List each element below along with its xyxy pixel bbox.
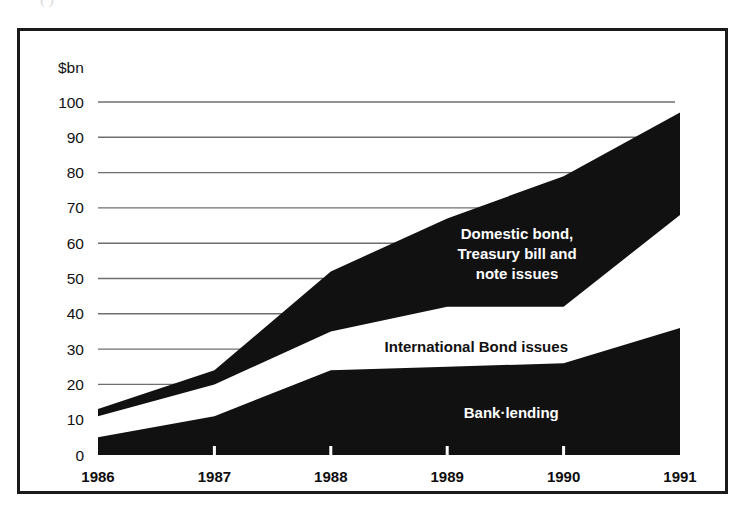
- x-tick-label-1989: 1989: [431, 468, 464, 485]
- figure-container: ( ) 0102030405060708090100 $bn 198619871…: [0, 0, 750, 521]
- y-tick-label-20: 20: [67, 376, 85, 393]
- series-label-2-line-0: Domestic bond,: [461, 225, 574, 242]
- x-axis-labels-group: 198619871988198919901991: [81, 468, 696, 485]
- y-tick-label-10: 10: [67, 411, 85, 428]
- scan-artifact-text: ( ): [40, 0, 300, 9]
- y-tick-label-50: 50: [67, 270, 85, 287]
- x-tick-label-1991: 1991: [663, 468, 696, 485]
- y-tick-label-40: 40: [67, 305, 85, 322]
- y-tick-label-90: 90: [67, 129, 85, 146]
- y-tick-label-100: 100: [58, 94, 84, 111]
- series-label-2-line-1: Treasury bill and: [457, 245, 576, 262]
- series-label-1: International Bond issues: [385, 338, 568, 355]
- chart-frame-border: 0102030405060708090100 $bn 1986198719881…: [17, 28, 728, 494]
- x-tick-label-1990: 1990: [547, 468, 580, 485]
- y-tick-label-0: 0: [75, 447, 84, 464]
- y-tick-label-60: 60: [67, 235, 85, 252]
- y-tick-label-30: 30: [67, 341, 85, 358]
- area-series-group: [98, 113, 680, 455]
- series-label-0: Bank·lending: [464, 404, 559, 421]
- y-axis-labels-group: 0102030405060708090100: [58, 94, 84, 464]
- y-tick-label-80: 80: [67, 164, 85, 181]
- x-tick-label-1987: 1987: [198, 468, 231, 485]
- y-tick-label-70: 70: [67, 199, 85, 216]
- x-tick-label-1988: 1988: [314, 468, 347, 485]
- y-axis-unit-label: $bn: [58, 59, 84, 76]
- x-tick-label-1986: 1986: [81, 468, 114, 485]
- series-label-2-line-2: note issues: [476, 265, 559, 282]
- stacked-area-chart: 0102030405060708090100 $bn 1986198719881…: [20, 31, 725, 491]
